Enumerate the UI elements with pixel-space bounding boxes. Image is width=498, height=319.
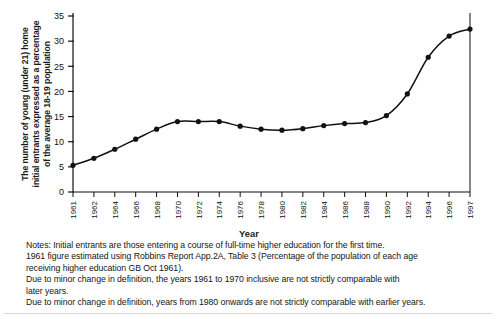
x-axis-tick-label: 1980 [278, 200, 287, 218]
data-point-marker [112, 147, 117, 152]
y-axis-tick-label: 20 [54, 87, 64, 97]
x-axis-tick-label: 1974 [215, 200, 224, 218]
x-axis-tick-label: 1986 [341, 200, 350, 218]
figure-container: The number of young (under 21) home init… [0, 0, 498, 319]
x-axis-tick-label: 1976 [236, 200, 245, 218]
x-axis-tick-label: 1968 [153, 200, 162, 218]
y-axis-tick-label: 10 [54, 137, 64, 147]
data-point-marker [133, 137, 138, 142]
y-axis-tick-label: 35 [54, 11, 64, 21]
note-line-5: later years. [26, 286, 488, 297]
bottom-divider [4, 313, 492, 314]
data-point-marker [279, 128, 284, 133]
y-axis-tick-label: 15 [54, 112, 64, 122]
y-axis-tick-label: 0 [59, 187, 64, 197]
data-point-marker [447, 34, 452, 39]
x-axis-tick-label: 1966 [132, 200, 141, 218]
data-point-marker [154, 127, 159, 132]
data-point-marker [300, 126, 305, 131]
x-axis-tick-label: 1961 [69, 200, 78, 218]
figure-notes: Notes: Initial entrants are those enteri… [26, 240, 488, 308]
x-axis-tick-label: 1970 [174, 200, 183, 218]
data-point-marker [384, 113, 389, 118]
data-point-marker [258, 127, 263, 132]
data-point-marker [363, 120, 368, 125]
note-line-3: receiving higher education GB Oct 1961). [26, 263, 488, 274]
x-axis-tick-label: 1997 [466, 200, 475, 218]
y-axis-tick-label: 30 [54, 36, 64, 46]
x-axis-tick-label: 1978 [257, 200, 266, 218]
x-axis-tick-label: 1964 [111, 200, 120, 218]
data-point-marker [196, 119, 201, 124]
x-axis-tick-label: 1972 [195, 200, 204, 218]
note-line-6: Due to minor change in definition, years… [26, 297, 488, 308]
data-point-marker [321, 123, 326, 128]
y-axis-tick-label: 25 [54, 62, 64, 72]
x-axis-label: Year [0, 228, 498, 239]
x-axis-tick-label: 1962 [90, 200, 99, 218]
data-point-marker [342, 121, 347, 126]
data-point-marker [175, 119, 180, 124]
x-axis-tick-label: 1982 [299, 200, 308, 218]
note-line-4: Due to minor change in definition, the y… [26, 274, 488, 285]
data-point-marker [426, 55, 431, 60]
data-series-line [73, 29, 470, 165]
data-point-marker [217, 119, 222, 124]
x-axis-tick-label: 1996 [445, 200, 454, 218]
x-axis-tick-label: 1988 [362, 200, 371, 218]
note-line-1: Notes: Initial entrants are those enteri… [26, 240, 488, 251]
data-point-marker [91, 156, 96, 161]
data-point-marker [467, 26, 472, 31]
x-axis-tick-label: 1992 [404, 200, 413, 218]
data-point-marker [238, 124, 243, 129]
note-line-2: 1961 figure estimated using Robbins Repo… [26, 251, 488, 262]
y-axis-tick-label: 5 [59, 162, 64, 172]
line-chart-plot: 0510152025303519611962196419661968197019… [0, 0, 498, 228]
x-axis-tick-label: 1990 [383, 200, 392, 218]
x-axis-tick-label: 1984 [320, 200, 329, 218]
chart-area: The number of young (under 21) home init… [0, 0, 498, 228]
data-point-marker [70, 163, 75, 168]
data-point-marker [405, 91, 410, 96]
x-axis-tick-label: 1994 [424, 200, 433, 218]
